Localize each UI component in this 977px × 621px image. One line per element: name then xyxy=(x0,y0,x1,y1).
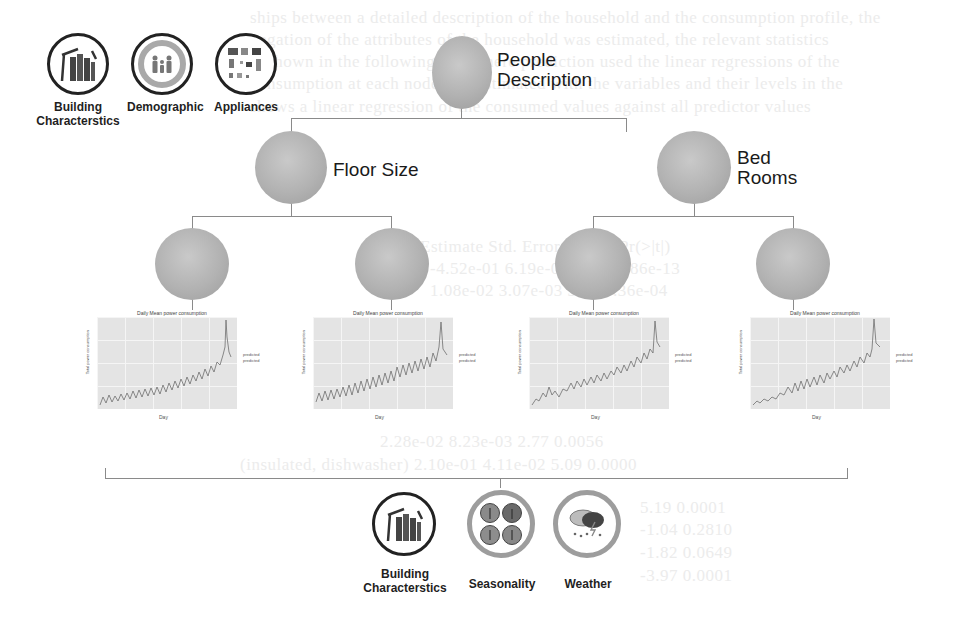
chart-ylabel: Total power consumption xyxy=(85,330,90,374)
legend-item: predicted xyxy=(896,358,912,364)
background-text: 1.08e-02 3.07e-03 3.52 4.36e-04 xyxy=(430,281,668,301)
chart-title: Daily Mean power consumption xyxy=(750,310,900,316)
weather-icon xyxy=(565,506,609,542)
connector xyxy=(461,108,462,118)
chart-ylabel: Total power consumption xyxy=(738,330,743,374)
bottom-bracket xyxy=(500,478,501,488)
background-text: shows a linear regression of the consume… xyxy=(250,97,811,117)
label-line: Appliances xyxy=(213,100,279,114)
chart-ylabel: Total power consumption xyxy=(517,330,522,374)
background-text: 2.28e-02 8.23e-03 2.77 0.0056 xyxy=(380,432,604,452)
chart-xlabel: Day xyxy=(375,414,384,420)
chart-leaf-3: Daily Mean power consumption Total power… xyxy=(519,310,709,430)
building-icon xyxy=(382,505,426,543)
seasons-icon xyxy=(479,502,523,546)
bottom-bracket xyxy=(105,468,106,478)
connector xyxy=(291,118,292,132)
label-line: Demographic xyxy=(127,100,197,114)
label-line: People xyxy=(497,50,592,70)
background-text: negation of the attributes of the househ… xyxy=(250,30,829,50)
node-leaf-4[interactable] xyxy=(756,228,830,300)
chart-leaf-4: Daily Mean power consumption Total power… xyxy=(740,310,930,430)
chart-plot xyxy=(750,317,890,409)
chart-legend: predicted predicted xyxy=(243,352,259,364)
chart-plot xyxy=(97,317,237,409)
chart-legend: predicted predicted xyxy=(459,352,475,364)
label-line: Floor Size xyxy=(333,160,419,180)
weather-icon-bottom xyxy=(553,490,621,558)
bottom-bracket xyxy=(105,478,848,479)
chart-leaf-1: Daily Mean power consumption Total power… xyxy=(87,310,277,430)
appliances-icon xyxy=(226,46,266,82)
chart-legend: predicted predicted xyxy=(675,352,691,364)
label-line: Seasonality xyxy=(466,577,538,591)
chart-title: Daily Mean power consumption xyxy=(97,310,247,316)
chart-legend: predicted predicted xyxy=(896,352,912,364)
label-line: Characterstics xyxy=(358,581,452,595)
chart-plot xyxy=(529,317,669,409)
background-text: Estimate Std. Error t value Pr(>|t|) xyxy=(420,237,671,257)
family-icon xyxy=(149,54,175,74)
icon-label-seasonality: Seasonality xyxy=(466,577,538,591)
node-leaf-1[interactable] xyxy=(155,228,229,300)
background-text: -1.04 0.2810 xyxy=(640,520,732,540)
node-leaf-2[interactable] xyxy=(355,228,429,300)
legend-item: predicted xyxy=(459,358,475,364)
chart-leaf-2: Daily Mean power consumption Total power… xyxy=(303,310,493,430)
legend-item: predicted xyxy=(675,358,691,364)
connector xyxy=(291,118,627,119)
appliances-icon-top xyxy=(215,33,277,95)
connector xyxy=(291,203,292,216)
line-series xyxy=(97,317,237,409)
background-text: ships between a detailed description of … xyxy=(250,8,881,28)
background-text: -1.82 0.0649 xyxy=(640,543,732,563)
chart-xlabel: Day xyxy=(591,414,600,420)
icon-label-weather: Weather xyxy=(555,577,621,591)
bottom-bracket xyxy=(847,468,848,478)
line-series xyxy=(750,317,890,409)
connector xyxy=(192,216,392,217)
connector xyxy=(626,118,627,132)
chart-ylabel: Total power consumption xyxy=(301,330,306,374)
seasons-icon-bottom xyxy=(467,490,535,558)
label-line: Weather xyxy=(555,577,621,591)
chart-xlabel: Day xyxy=(159,414,168,420)
line-series xyxy=(313,317,453,409)
building-icon-bottom xyxy=(372,492,436,556)
node-label-floor-size: Floor Size xyxy=(333,160,419,180)
label-line: Bed xyxy=(737,148,797,168)
node-floor-size[interactable] xyxy=(255,131,327,204)
line-series xyxy=(529,317,669,409)
label-line: Building xyxy=(31,100,125,114)
chart-title: Daily Mean power consumption xyxy=(529,310,679,316)
chart-xlabel: Day xyxy=(812,414,821,420)
icon-label-appliances: Appliances xyxy=(213,100,279,114)
building-icon xyxy=(56,45,100,83)
node-people-description[interactable] xyxy=(432,36,492,109)
node-bed-rooms[interactable] xyxy=(657,131,731,204)
icon-label-building-characteristics: Building Characterstics xyxy=(358,567,452,595)
background-text: -3.97 0.0001 xyxy=(640,566,732,586)
icon-label-demographic: Demographic xyxy=(127,100,197,114)
connector xyxy=(694,203,695,216)
building-icon-top xyxy=(47,33,109,95)
legend-item: predicted xyxy=(243,358,259,364)
label-line: Characterstics xyxy=(31,114,125,128)
label-line: Description xyxy=(497,70,592,90)
node-label-bed-rooms: Bed Rooms xyxy=(737,148,797,188)
label-line: Building xyxy=(358,567,452,581)
label-line: Rooms xyxy=(737,168,797,188)
family-icon-top xyxy=(131,33,193,95)
background-text: (insulated, dishwasher) 2.10e-01 4.11e-0… xyxy=(240,455,637,475)
node-leaf-3[interactable] xyxy=(555,228,631,300)
connector xyxy=(593,216,794,217)
node-label-people-description: People Description xyxy=(497,50,592,90)
chart-plot xyxy=(313,317,453,409)
chart-title: Daily Mean power consumption xyxy=(313,310,463,316)
background-text: 5.19 0.0001 xyxy=(640,498,726,518)
icon-label-building-characteristics: Building Characterstics xyxy=(31,100,125,128)
